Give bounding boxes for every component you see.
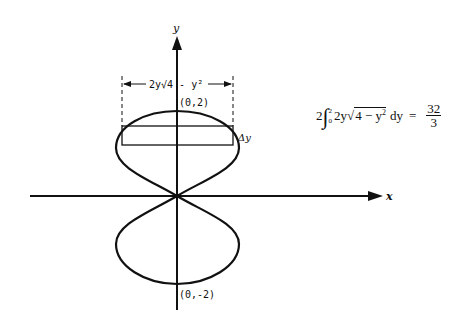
x-axis-label: x [385,190,393,203]
integrand-prefix: 2y [334,108,347,124]
result-fraction: 32 3 [426,102,441,129]
radicand: 4 − y2 [354,107,386,124]
upper-limit: 2 [329,106,333,116]
x-axis-arrow-icon [368,191,383,201]
dimension-label: 2y√4 - y² [149,79,203,90]
equals-sign: = [409,108,416,124]
integral-limits: 2 0 [329,106,333,126]
y-axis-label: y [172,22,180,35]
area-integral-formula: 2 ∫ 2 0 2y √ 4 − y2 dy = 32 3 [316,102,441,129]
differential: dy [390,108,403,124]
radicand-exponent: 2 [382,108,386,117]
result-numerator: 32 [426,102,441,116]
result-denominator: 3 [431,116,438,129]
y-axis-arrow-icon [172,36,182,50]
radical-symbol: √ [347,108,354,124]
dimension-arrow-left-icon [123,81,131,87]
point-label-top: (0,2) [179,97,209,108]
lower-limit: 0 [329,116,333,126]
point-label-bottom: (0,-2) [179,289,215,300]
dimension-arrow-right-icon [224,81,232,87]
delta-y-label: Δy [237,132,251,143]
diagram-canvas: y x Δy 2y√4 - y² (0,2) (0,-2) [0,0,468,326]
integral-sign: ∫ [323,104,329,130]
